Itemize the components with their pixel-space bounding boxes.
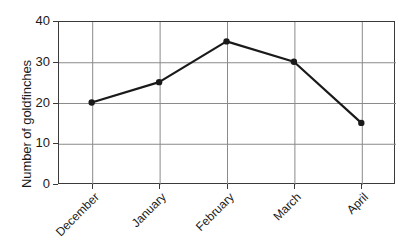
- plot-area: [58, 21, 395, 184]
- x-axis-tick-label: December: [0, 190, 102, 252]
- y-axis-tick-mark: [53, 184, 58, 185]
- y-axis-tick-mark: [53, 21, 58, 22]
- y-axis-tick-mark: [53, 62, 58, 63]
- y-axis-tick-label: 10: [28, 136, 50, 149]
- y-axis-tick-mark: [53, 143, 58, 144]
- y-axis-tick-label: 20: [28, 96, 50, 109]
- line-chart: Number of goldfinches 010203040 December…: [0, 0, 411, 252]
- y-axis-tick-label: 30: [28, 55, 50, 68]
- y-axis-tick-label: 0: [28, 177, 50, 190]
- x-axis-tick-mark: [361, 184, 362, 189]
- x-axis-tick-mark: [294, 184, 295, 189]
- x-axis-tick-mark: [227, 184, 228, 189]
- y-axis-tick-labels: 010203040: [26, 0, 50, 252]
- plot-grid: [59, 22, 396, 185]
- x-axis-tick-mark: [159, 184, 160, 189]
- y-axis-tick-label: 40: [28, 14, 50, 27]
- x-axis-tick-mark: [92, 184, 93, 189]
- y-axis-tick-mark: [53, 103, 58, 104]
